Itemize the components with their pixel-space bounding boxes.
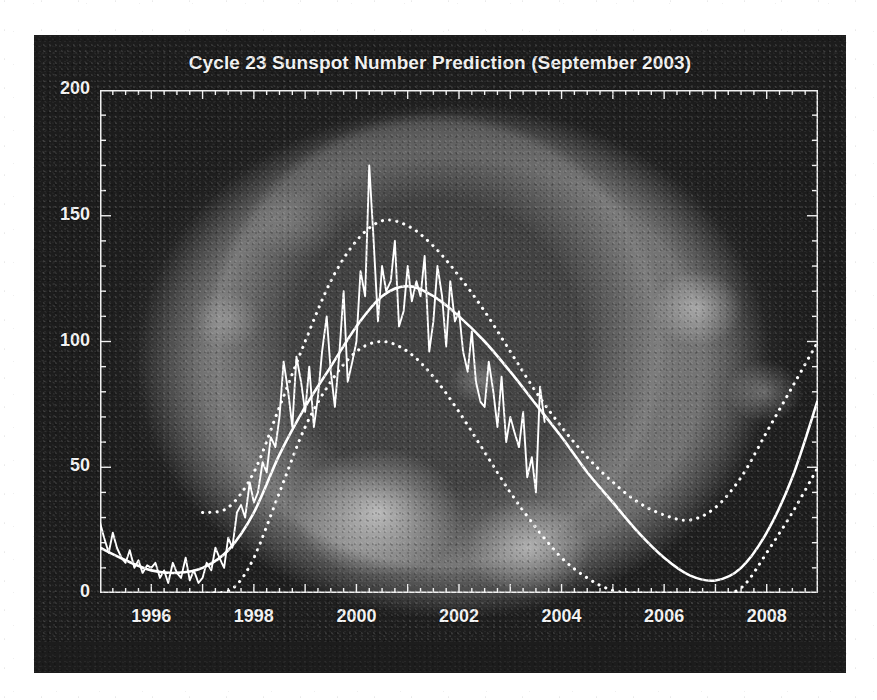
plot-area: 050100150200 199619982000200220042006200… <box>100 90 818 593</box>
x-tick-label-2000: 2000 <box>321 606 391 627</box>
y-tick-label-0: 0 <box>34 581 90 602</box>
chart-plot-svg <box>100 90 818 593</box>
y-tick-label-200: 200 <box>34 78 90 99</box>
chart-figure-panel: Cycle 23 Sunspot Number Prediction (Sept… <box>34 35 846 673</box>
x-tick-label-1998: 1998 <box>219 606 289 627</box>
y-tick-label-100: 100 <box>34 330 90 351</box>
x-tick-label-2004: 2004 <box>527 606 597 627</box>
axis-ticks-group <box>100 90 818 593</box>
figure-page: Cycle 23 Sunspot Number Prediction (Sept… <box>0 0 877 700</box>
y-tick-label-50: 50 <box>34 455 90 476</box>
x-tick-label-2008: 2008 <box>732 606 802 627</box>
y-tick-label-150: 150 <box>34 204 90 225</box>
series-line-0 <box>100 165 545 582</box>
data-series-group <box>100 165 818 593</box>
series-line-1 <box>100 286 818 581</box>
plot-frame <box>101 91 818 593</box>
x-tick-label-1996: 1996 <box>116 606 186 627</box>
x-tick-label-2006: 2006 <box>629 606 699 627</box>
x-tick-label-2002: 2002 <box>424 606 494 627</box>
